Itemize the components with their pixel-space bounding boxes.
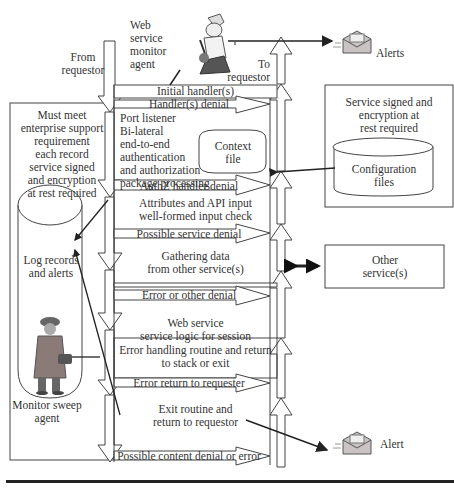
from-requestor-label: From requestor (58, 51, 108, 77)
error-return-label: Error return to requester (114, 377, 264, 390)
bottom-rule (6, 480, 454, 483)
service-signed-label: Service signed and encryption at rest re… (326, 96, 452, 135)
error-other-denial-label: Error or other denial (114, 289, 264, 302)
to-requestor-label: To requestor (230, 58, 270, 84)
possible-service-denial-label: Possible service denial (114, 228, 264, 241)
alert-envelope-icon (333, 432, 371, 454)
authz-denial-label: AuthZ handler denial (114, 180, 264, 193)
other-services-label: Other service(s) (326, 254, 444, 280)
gathering-bottom-bar (114, 283, 277, 287)
content-denial-label: Possible content denial or error (114, 450, 264, 463)
error-handling-label: Error handling routine and return to sta… (114, 344, 277, 370)
web-service-logic-label: Web service service logic for session (114, 317, 277, 343)
exit-routine-label: Exit routine and return to requestor (114, 403, 277, 429)
alerts-label: Alerts (376, 47, 404, 60)
monitor-agent-connector (170, 70, 180, 85)
to-requestor-arrow (270, 37, 292, 84)
monitor-sweep-agent-label: Monitor sweep agent (12, 399, 82, 425)
configuration-files-label: Configuration files (334, 163, 434, 189)
web-service-monitor-agent-figure (199, 14, 230, 74)
alert-label: Alert (380, 438, 404, 451)
alerts-envelope-icon (333, 31, 371, 53)
context-file-label: Context file (200, 140, 266, 166)
port-listener-label: Port listener Bi-lateral end-to-end auth… (120, 112, 210, 190)
attributes-check-label: Attributes and API input well-formed inp… (114, 197, 277, 223)
gathering-data-label: Gathering data from other service(s) (114, 250, 277, 276)
web-service-monitor-agent-label: Web service monitor agent (130, 19, 166, 71)
log-records-label: Log records and alerts (16, 254, 86, 280)
config-cylinder-top (333, 138, 433, 156)
handler-denial-label: Handler(s) denial (114, 98, 264, 111)
enterprise-requirement-label: Must meet enterprise support requirement… (12, 109, 112, 200)
initial-handler-label: Initial handler(s) (114, 85, 277, 98)
